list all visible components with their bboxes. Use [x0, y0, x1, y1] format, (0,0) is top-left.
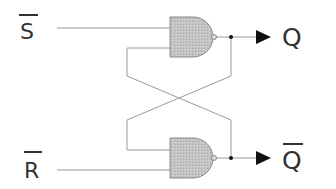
- label-r: R: [24, 158, 39, 183]
- wires: [57, 28, 258, 170]
- label-q-bar-text: Q: [282, 146, 302, 175]
- sr-latch-diagram: S R Q Q: [0, 0, 336, 189]
- junction-dot-top: [229, 35, 233, 39]
- nand-gate-bottom: [170, 138, 217, 178]
- nand-gate-top: [170, 17, 217, 57]
- label-r-bar: R: [24, 152, 42, 183]
- inversion-bubble-icon: [212, 35, 217, 40]
- junction-dot-bottom: [229, 156, 233, 160]
- label-q: Q: [282, 23, 302, 52]
- label-q-bar: Q: [282, 144, 303, 175]
- label-s: S: [20, 19, 34, 44]
- arrow-right-icon: [256, 30, 271, 44]
- arrow-right-icon: [256, 151, 271, 165]
- inversion-bubble-icon: [212, 156, 217, 161]
- label-s-bar: S: [19, 15, 38, 44]
